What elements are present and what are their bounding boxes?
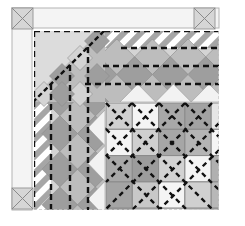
border-strip-top — [12, 8, 219, 28]
band-diamond — [224, 92, 244, 128]
corner-block-bottom-left — [12, 188, 33, 209]
left-band-stripes — [34, 102, 51, 210]
quilt-canvas — [0, 0, 244, 225]
setting-triangle — [88, 217, 105, 225]
quilt-diagram — [0, 0, 244, 225]
border-strip-left — [12, 8, 32, 210]
center-grid — [106, 103, 238, 225]
corner-block-top-right — [194, 8, 215, 29]
grid-cell — [211, 129, 237, 155]
grid-cell — [132, 208, 158, 225]
band-diamond — [78, 223, 114, 225]
corner-block-top-left — [12, 8, 33, 29]
band-diamond — [224, 57, 244, 93]
band-diamond — [241, 39, 244, 75]
band-diamond — [241, 75, 244, 111]
grid-cell — [211, 156, 237, 182]
band-diamond — [42, 223, 78, 225]
setting-triangle — [227, 84, 244, 102]
grid-cell — [185, 208, 211, 225]
inner-field — [32, 29, 245, 226]
grid-cell — [106, 208, 132, 225]
grid-cell — [159, 208, 185, 225]
grid-cell — [211, 208, 237, 225]
